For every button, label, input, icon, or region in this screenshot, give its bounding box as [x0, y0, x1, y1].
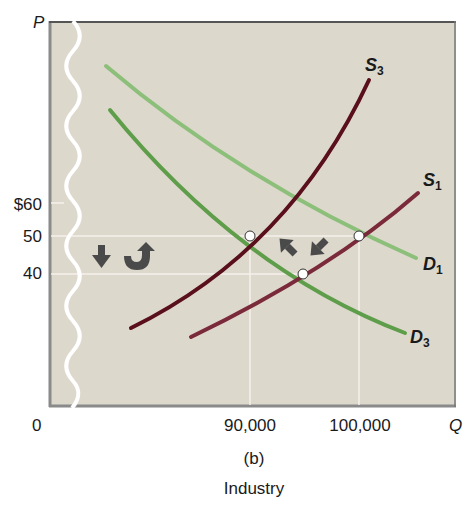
y-tick-40: 40	[0, 265, 42, 282]
equilibrium-point-s3-d3	[245, 231, 255, 241]
label-d1-sub: 1	[436, 263, 443, 277]
label-d3-text: D	[410, 327, 423, 347]
label-s3-text: S	[365, 55, 377, 75]
chart-title: Industry	[17, 479, 474, 499]
equilibrium-point-s1-d3	[298, 269, 308, 279]
equilibrium-point-s1-d1	[354, 231, 364, 241]
label-s1-text: S	[423, 170, 435, 190]
q-axis-label: Q	[449, 417, 462, 434]
label-s3-sub: 3	[377, 64, 384, 78]
panel-label: (b)	[17, 449, 474, 469]
y-tick-50: 50	[0, 228, 42, 245]
label-d3: D3	[410, 328, 430, 349]
p-axis-label: P	[33, 14, 44, 31]
label-d1: D1	[423, 255, 443, 276]
label-s3: S3	[365, 56, 384, 77]
label-s1-sub: 1	[435, 179, 442, 193]
label-s1: S1	[423, 171, 442, 192]
x-tick-100000: 100,000	[322, 417, 398, 434]
label-d1-text: D	[423, 254, 436, 274]
x-tick-90000: 90,000	[218, 417, 282, 434]
label-d3-sub: 3	[423, 336, 430, 350]
y-tick-60: $60	[0, 196, 42, 213]
origin-label: 0	[32, 417, 41, 434]
